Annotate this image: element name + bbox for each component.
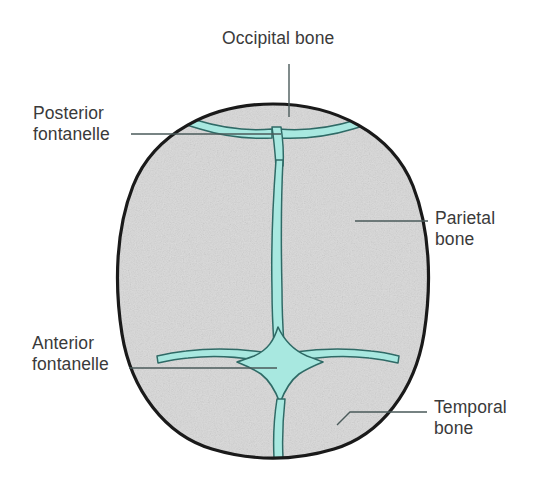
label-occipital-bone: Occipital bone — [222, 28, 334, 49]
label-anterior-fontanelle: Anterior fontanelle — [32, 333, 109, 375]
label-temporal-bone: Temporal bone — [434, 397, 507, 439]
sagittal-suture — [272, 160, 284, 345]
label-posterior-fontanelle: Posterior fontanelle — [33, 103, 110, 145]
metopic-suture — [274, 399, 285, 458]
label-parietal-bone: Parietal bone — [435, 208, 495, 250]
